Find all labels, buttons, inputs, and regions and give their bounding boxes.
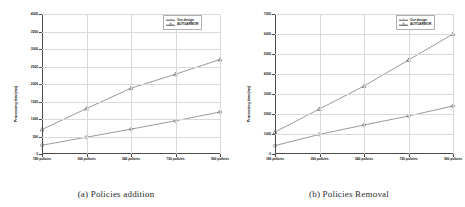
x-axis-tick-label: 900 policies (211, 157, 229, 161)
legend-label: AUTOARMOR (177, 22, 198, 27)
y-axis-tick-label: 2000 (264, 112, 271, 116)
y-axis-tick-label: 2500 (31, 65, 38, 69)
y-axis-tick-label: 1000 (264, 132, 271, 136)
y-axis-tick (39, 137, 42, 138)
y-axis-tick-label: 7000 (264, 12, 271, 16)
y-axis-tick (39, 102, 42, 103)
y-axis-tick-label: 6000 (264, 32, 271, 36)
figure-container: Processing time(ms) 05001000150020002500… (0, 0, 465, 207)
y-axis-tick-label: 4000 (31, 12, 38, 16)
x-axis-tick-label: 180 policies (266, 157, 284, 161)
chart-legend: ○ Our design △ AUTOARMOR (163, 15, 202, 30)
x-axis-tick-label: 360 policies (310, 157, 328, 161)
x-axis-tick-label: 540 policies (355, 157, 373, 161)
y-axis-title: Processing time(ms) (14, 85, 18, 121)
y-axis-tick (272, 114, 275, 115)
legend-entry-autoarmor: △ AUTOARMOR (166, 22, 198, 27)
x-axis-tick-label: 900 policies (444, 157, 462, 161)
y-axis-tick-label: 2000 (31, 82, 38, 86)
figure-caption: (b) Policies Removal (233, 189, 465, 199)
y-axis-tick-label: 500 (33, 135, 38, 139)
legend-label: AUTOARMOR (410, 22, 431, 27)
chart-panel-policies-addition: Processing time(ms) 05001000150020002500… (0, 0, 232, 207)
x-axis-tick-label: 180 policies (33, 157, 51, 161)
y-axis-tick (272, 54, 275, 55)
triangle-marker-icon: △ (166, 23, 175, 27)
x-axis-tick-label: 540 policies (122, 157, 140, 161)
y-axis-tick (272, 74, 275, 75)
grid-line-vertical (176, 14, 177, 154)
y-axis-tick-label: 1000 (31, 117, 38, 121)
y-axis-tick-label: 1500 (31, 100, 38, 104)
y-axis-tick (272, 134, 275, 135)
x-axis-tick-label: 360 policies (77, 157, 95, 161)
grid-line-vertical (131, 14, 132, 154)
triangle-marker-icon: △ (399, 23, 408, 27)
y-axis-tick-label: 0 (269, 152, 271, 156)
plot-area: 01000200030004000500060007000180 policie… (275, 14, 453, 154)
y-axis-tick-label: 3500 (31, 30, 38, 34)
y-axis-tick-label: 3000 (264, 92, 271, 96)
grid-line-vertical (87, 14, 88, 154)
grid-line-vertical (220, 14, 221, 154)
y-axis-tick (272, 34, 275, 35)
grid-line-vertical (409, 14, 410, 154)
legend-entry-autoarmor: △ AUTOARMOR (399, 22, 431, 27)
y-axis-title: Processing time(ms) (247, 85, 251, 121)
y-axis-tick-label: 5000 (264, 52, 271, 56)
y-axis-tick-label: 4000 (264, 72, 271, 76)
chart-panel-policies-removal: Processing time(ms) 01000200030004000500… (233, 0, 465, 207)
y-axis-tick (39, 14, 42, 15)
y-axis-tick (39, 119, 42, 120)
x-axis-tick-label: 720 policies (166, 157, 184, 161)
y-axis-tick-label: 0 (36, 152, 38, 156)
grid-line-vertical (453, 14, 454, 154)
y-axis-tick (272, 94, 275, 95)
chart-legend: ○ Our design △ AUTOARMOR (396, 15, 435, 30)
grid-line-vertical (364, 14, 365, 154)
y-axis-tick (39, 84, 42, 85)
y-axis-tick (39, 67, 42, 68)
plot-area: 05001000150020002500300035004000180 poli… (42, 14, 220, 154)
figure-caption: (a) Policies addition (0, 189, 232, 199)
grid-line-vertical (320, 14, 321, 154)
y-axis-tick (272, 14, 275, 15)
y-axis-tick (39, 32, 42, 33)
y-axis-tick (39, 49, 42, 50)
y-axis-tick-label: 3000 (31, 47, 38, 51)
x-axis-tick-label: 720 policies (399, 157, 417, 161)
